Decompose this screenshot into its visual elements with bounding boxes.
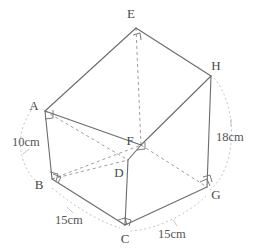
vertex-labels-group: E H A F D B G C — [29, 6, 220, 246]
right-angle-G — [200, 179, 210, 186]
edge-D-C — [125, 160, 128, 225]
dimension-arc-bottom-right — [130, 196, 206, 231]
vertex-label-H: H — [211, 58, 220, 73]
vertex-label-A: A — [29, 98, 39, 113]
dimension-label-18cm: 18cm — [216, 130, 244, 144]
dimension-label-10cm: 10cm — [12, 135, 40, 149]
vertex-label-E: E — [127, 6, 135, 21]
edge-F-G — [141, 145, 207, 187]
vertex-label-G: G — [211, 187, 220, 202]
right-angle-marks-group — [45, 33, 212, 226]
edge-E-A — [45, 28, 136, 111]
right-angle-E — [133, 33, 141, 40]
dashed-edges-group — [45, 28, 207, 187]
vertex-label-D: D — [114, 165, 123, 180]
edge-A-B — [45, 111, 52, 179]
dimension-label-15cm-right: 15cm — [158, 227, 186, 241]
edge-H-F — [141, 76, 211, 145]
vertex-label-C: C — [121, 231, 130, 246]
vertex-label-B: B — [35, 177, 44, 192]
leader-15cm-right — [173, 220, 177, 226]
leader-10cm — [23, 149, 29, 154]
edge-E-H — [136, 28, 211, 76]
dimension-label-15cm: 15cm — [55, 213, 83, 227]
edge-H-G — [207, 76, 211, 187]
solid-edges-group — [45, 28, 211, 225]
edge-E-F — [136, 28, 141, 145]
geometry-figure: E H A F D B G C 10cm 18cm 15cm 15cm — [0, 0, 260, 252]
vertex-label-F: F — [126, 133, 133, 148]
diagram-canvas: E H A F D B G C 10cm 18cm 15cm 15cm — [0, 0, 260, 252]
